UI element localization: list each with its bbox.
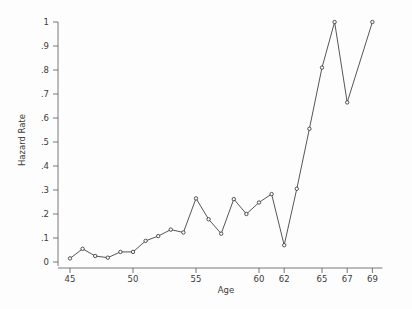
data-point-marker (283, 244, 286, 247)
data-point-marker (131, 250, 134, 253)
y-tick-label: .3 (41, 185, 49, 195)
hazard-rate-line-chart: 0.1.2.3.4.5.6.7.8.91 4550556062656769 Ha… (0, 0, 412, 309)
data-point-marker (119, 250, 122, 253)
y-tick-label: .1 (41, 233, 49, 243)
data-point-marker (68, 257, 71, 260)
data-point-marker (295, 187, 298, 190)
y-tick-label: .4 (41, 161, 49, 171)
y-tick-label: .9 (41, 41, 49, 51)
data-point-marker (245, 212, 248, 215)
data-point-marker (346, 101, 349, 104)
data-point-marker (106, 256, 109, 259)
x-tick-label: 69 (367, 274, 378, 284)
y-tick-label: 0 (44, 257, 49, 267)
series-line-path (70, 22, 372, 258)
data-point-marker (333, 20, 336, 23)
x-tick-label: 62 (279, 274, 290, 284)
x-tick-label: 67 (342, 274, 353, 284)
data-point-marker (308, 127, 311, 130)
data-point-marker (94, 254, 97, 257)
data-point-marker (257, 201, 260, 204)
data-point-marker (270, 192, 273, 195)
x-axis-title: Age (218, 285, 234, 295)
y-tick-label: .2 (41, 209, 49, 219)
data-point-marker (371, 20, 374, 23)
y-tick-label: .8 (41, 65, 49, 75)
series-markers (68, 20, 374, 260)
y-axis: 0.1.2.3.4.5.6.7.8.91 (41, 17, 58, 267)
data-point-marker (220, 232, 223, 235)
data-point-marker (157, 234, 160, 237)
data-series-hazard-rate (68, 20, 374, 260)
data-point-marker (194, 197, 197, 200)
x-axis: 4550556062656769 (58, 268, 382, 284)
data-point-marker (232, 197, 235, 200)
y-tick-label: .7 (41, 89, 49, 99)
data-point-marker (320, 66, 323, 69)
data-point-marker (207, 218, 210, 221)
y-axis-title: Hazard Rate (17, 114, 27, 166)
chart-screenshot: 0.1.2.3.4.5.6.7.8.91 4550556062656769 Ha… (0, 0, 412, 309)
data-point-marker (144, 239, 147, 242)
y-tick-label: .6 (41, 113, 49, 123)
data-point-marker (169, 228, 172, 231)
y-tick-label: .5 (41, 137, 49, 147)
x-tick-label: 55 (191, 274, 202, 284)
x-tick-label: 60 (254, 274, 265, 284)
x-tick-label: 50 (128, 274, 139, 284)
x-tick-label: 65 (317, 274, 328, 284)
data-point-marker (81, 247, 84, 250)
x-tick-label: 45 (65, 274, 76, 284)
data-point-marker (182, 231, 185, 234)
y-tick-label: 1 (44, 17, 49, 27)
